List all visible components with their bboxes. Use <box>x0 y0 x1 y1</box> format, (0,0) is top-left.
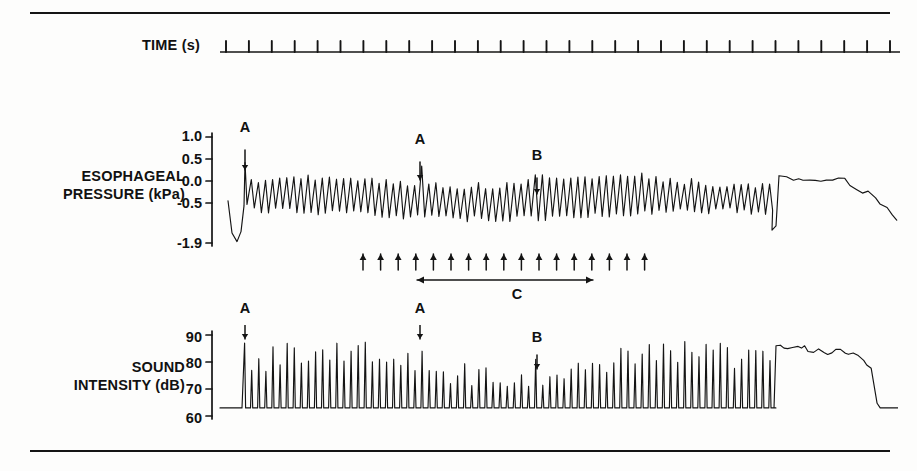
top-rule <box>30 12 890 14</box>
sound-tick-4: 60 <box>140 411 202 426</box>
sound-tick-1: 90 <box>140 330 202 345</box>
figure-container: TIME (s) ESOPHAGEAL PRESSURE (kPa) SOUND… <box>0 0 917 471</box>
pressure-tick-2: 0.5 <box>140 152 202 167</box>
bottom-rule <box>30 450 890 452</box>
time-axis-plot <box>220 30 900 60</box>
pressure-tick-4: -0.5 <box>140 196 202 211</box>
sound-marker-a1: A <box>237 301 253 316</box>
arrow-row-annotation <box>355 252 675 290</box>
sound-tick-2: 80 <box>140 356 202 371</box>
pressure-tick-5: -1.9 <box>140 236 202 251</box>
pressure-tick-3: 0.0 <box>140 174 202 189</box>
sound-intensity-plot <box>198 325 898 430</box>
sound-marker-a2: A <box>412 301 428 316</box>
esophageal-pressure-plot <box>198 128 898 258</box>
sound-tick-3: 70 <box>140 382 202 397</box>
pressure-tick-1: 1.0 <box>140 129 202 144</box>
time-axis-label: TIME (s) <box>0 36 200 54</box>
